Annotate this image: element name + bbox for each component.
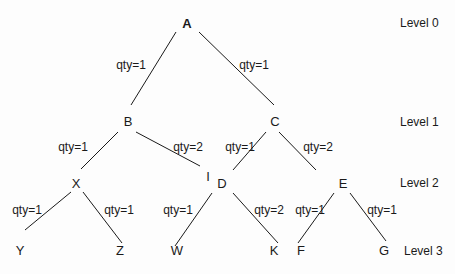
level-label-0: Level 0 — [400, 16, 439, 30]
node-W: W — [171, 243, 183, 258]
edge-E-G — [350, 193, 386, 241]
edge-E-F — [298, 193, 334, 243]
level-label-2: Level 2 — [400, 176, 439, 190]
bom-tree-diagram: A B C X I D E Y Z W K F G qty=1 qty=1 qt… — [0, 0, 455, 274]
edge-label-X-Y: qty=1 — [12, 203, 42, 217]
edge-D-W — [175, 193, 212, 246]
node-C: C — [270, 114, 279, 129]
edge-layer — [0, 0, 455, 274]
edge-label-D-W: qty=1 — [163, 203, 193, 217]
edge-label-B-I: qty=2 — [173, 140, 203, 154]
level-label-1: Level 1 — [400, 115, 439, 129]
node-Y: Y — [16, 243, 25, 258]
edge-label-D-K: qty=2 — [254, 203, 284, 217]
edge-label-A-B: qty=1 — [116, 58, 146, 72]
node-A: A — [182, 16, 191, 31]
edge-label-E-G: qty=1 — [367, 203, 397, 217]
node-F: F — [297, 243, 305, 258]
node-K: K — [270, 243, 279, 258]
node-I: I — [206, 169, 210, 184]
edge-label-A-C: qty=1 — [239, 58, 269, 72]
edge-D-K — [233, 193, 278, 243]
edge-label-B-X: qty=1 — [58, 140, 88, 154]
node-G: G — [379, 243, 389, 258]
edge-label-E-F: qty=1 — [295, 203, 325, 217]
node-X: X — [72, 176, 81, 191]
edge-label-C-D: qty=1 — [225, 140, 255, 154]
node-Z: Z — [116, 243, 124, 258]
node-B: B — [124, 114, 133, 129]
level-label-3: Level 3 — [404, 244, 443, 258]
edge-label-C-E: qty=2 — [303, 140, 333, 154]
edge-label-X-Z: qty=1 — [104, 203, 134, 217]
node-D: D — [217, 176, 226, 191]
node-E: E — [339, 176, 348, 191]
edge-X-Z — [83, 192, 122, 243]
